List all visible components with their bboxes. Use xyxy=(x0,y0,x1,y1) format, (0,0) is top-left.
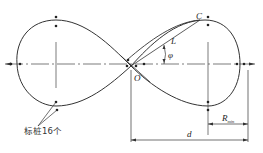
rmin-arrow-right-icon xyxy=(243,123,248,126)
stakes-note: 标桩16个 xyxy=(24,126,62,136)
label-d: d xyxy=(187,129,192,139)
label-o: O xyxy=(134,73,141,83)
tangent-curve xyxy=(127,20,200,60)
label-l: L xyxy=(170,36,176,46)
rmin-arrow-left-icon xyxy=(208,123,213,126)
stake-leader-1 xyxy=(38,102,56,126)
stake-leader-2 xyxy=(38,110,57,126)
right-arrow-icon xyxy=(249,63,255,66)
label-c: C xyxy=(196,11,203,21)
d-arrow-right-icon xyxy=(243,139,248,142)
phi-arrow-icon xyxy=(163,45,166,49)
label-phi: φ xyxy=(168,50,173,60)
label-rmin: Rmin xyxy=(221,113,235,124)
d-arrow-left-icon xyxy=(131,139,136,142)
stake-dots xyxy=(10,16,246,112)
line-L xyxy=(131,20,200,66)
figure-eight-diagram: C L φ O Rmin d 标桩16个 xyxy=(0,0,263,153)
